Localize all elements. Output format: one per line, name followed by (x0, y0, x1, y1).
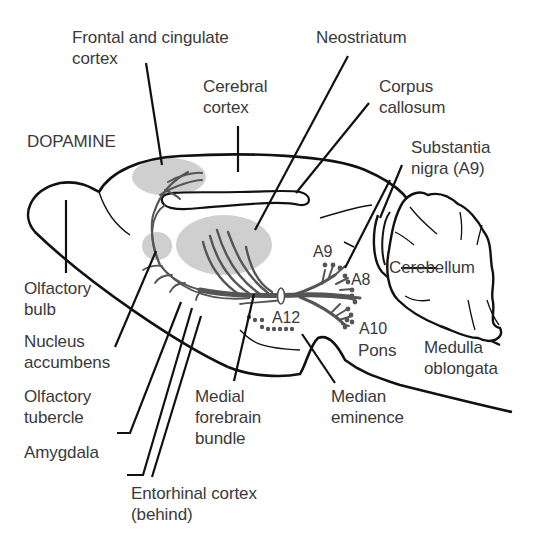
label-corpus-callosum: Corpus callosum (379, 76, 445, 118)
mfb-capsule (278, 288, 285, 304)
label-line: forebrain (195, 407, 261, 428)
label-pons: Pons (358, 340, 396, 361)
cell-group-label: A10 (359, 318, 387, 339)
label-medial-forebrain-bundle: Medial forebrain bundle (195, 386, 261, 449)
label-line: bundle (195, 428, 261, 449)
label-line: cortex (72, 48, 229, 69)
olfactory-inner-curve (99, 192, 130, 235)
label-entorhinal-cortex: Entorhinal cortex (behind) (131, 483, 257, 525)
label-line: Neostriatum (316, 27, 407, 48)
cell-group-label: A12 (272, 307, 300, 328)
label-line: nigra (A9) (411, 158, 490, 179)
label-olfactory-tubercle: Olfactory tubercle (24, 386, 91, 428)
label-line: Median (331, 386, 404, 407)
label-nucleus-accumbens: Nucleus accumbens (24, 331, 110, 373)
label-line: Medulla (424, 337, 498, 358)
cell-group-a10: A10 (359, 318, 387, 339)
label-line: Olfactory (24, 278, 91, 299)
label-line: Corpus (379, 76, 445, 97)
cell-group-a12: A12 (272, 307, 300, 328)
cell-group-a8: A8 (351, 269, 370, 290)
label-cerebellum: Cerebellum (389, 257, 475, 278)
label-medulla-oblongata: Medulla oblongata (424, 337, 498, 379)
label-line: Substantia (411, 137, 490, 158)
title-text: DOPAMINE (27, 131, 116, 152)
label-neostriatum: Neostriatum (316, 27, 407, 48)
label-olfactory-bulb: Olfactory bulb (24, 278, 91, 320)
midbrain-curve (320, 205, 372, 218)
label-line: accumbens (24, 352, 110, 373)
label-frontal-cingulate-cortex: Frontal and cingulate cortex (72, 27, 229, 69)
label-line: Entorhinal cortex (131, 483, 257, 504)
label-line: cortex (203, 97, 267, 118)
label-median-eminence: Median eminence (331, 386, 404, 428)
cell-group-label: A9 (313, 241, 332, 262)
dopamine-pathway-diagram: Frontal and cingulate cortex Neostriatum… (0, 0, 546, 546)
label-line: callosum (379, 97, 445, 118)
label-line: Amygdala (24, 442, 99, 463)
label-line: Cerebral (203, 76, 267, 97)
label-line: Nucleus (24, 331, 110, 352)
label-line: Cerebellum (389, 257, 475, 278)
corpus-callosum-shape (162, 191, 309, 209)
label-line: Medial (195, 386, 261, 407)
label-line: (behind) (131, 504, 257, 525)
label-line: Frontal and cingulate (72, 27, 229, 48)
cell-group-a9: A9 (313, 241, 332, 262)
label-substantia-nigra: Substantia nigra (A9) (411, 137, 490, 179)
hypothalamus-outline (240, 330, 300, 350)
label-line: Pons (358, 340, 396, 361)
label-line: eminence (331, 407, 404, 428)
label-cerebral-cortex: Cerebral cortex (203, 76, 267, 118)
label-line: oblongata (424, 358, 498, 379)
label-line: bulb (24, 299, 91, 320)
cell-group-label: A8 (351, 269, 370, 290)
diagram-title: DOPAMINE (27, 131, 116, 152)
label-line: Olfactory (24, 386, 91, 407)
label-line: tubercle (24, 407, 91, 428)
label-amygdala: Amygdala (24, 442, 99, 463)
